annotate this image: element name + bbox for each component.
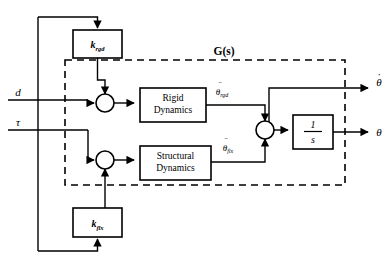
theta-ddot-rgd-subscript: rgd [220,92,229,98]
gain-block-k-flx[interactable] [73,208,122,237]
plant-label-gs: G(s) [213,45,234,58]
gain-k-flx-subscript: flx [96,224,104,231]
theta-ddot-flx-subscript: flx [227,148,233,154]
integrator-denominator: s [311,134,315,145]
summing-junction-rigid [96,94,114,112]
block-structural-dynamics-line2: Dynamics [156,163,195,173]
summing-junction-flex [96,151,114,169]
block-structural-dynamics-line1: Structural [157,151,195,161]
block-diagram-canvas: G(s) d τ krgd kflx Rigid Dynamics θrgd ¨… [0,0,390,268]
integrator-numerator: 1 [311,119,316,130]
output-label-theta: θ [376,126,382,138]
gain-k-rgd-subscript: rgd [95,45,105,52]
theta-dot-accent: · [378,68,381,80]
block-rigid-dynamics-line1: Rigid [162,93,183,103]
block-rigid-dynamics-line2: Dynamics [154,105,193,115]
summing-junction-output [256,121,274,139]
input-label-d: d [15,86,21,98]
